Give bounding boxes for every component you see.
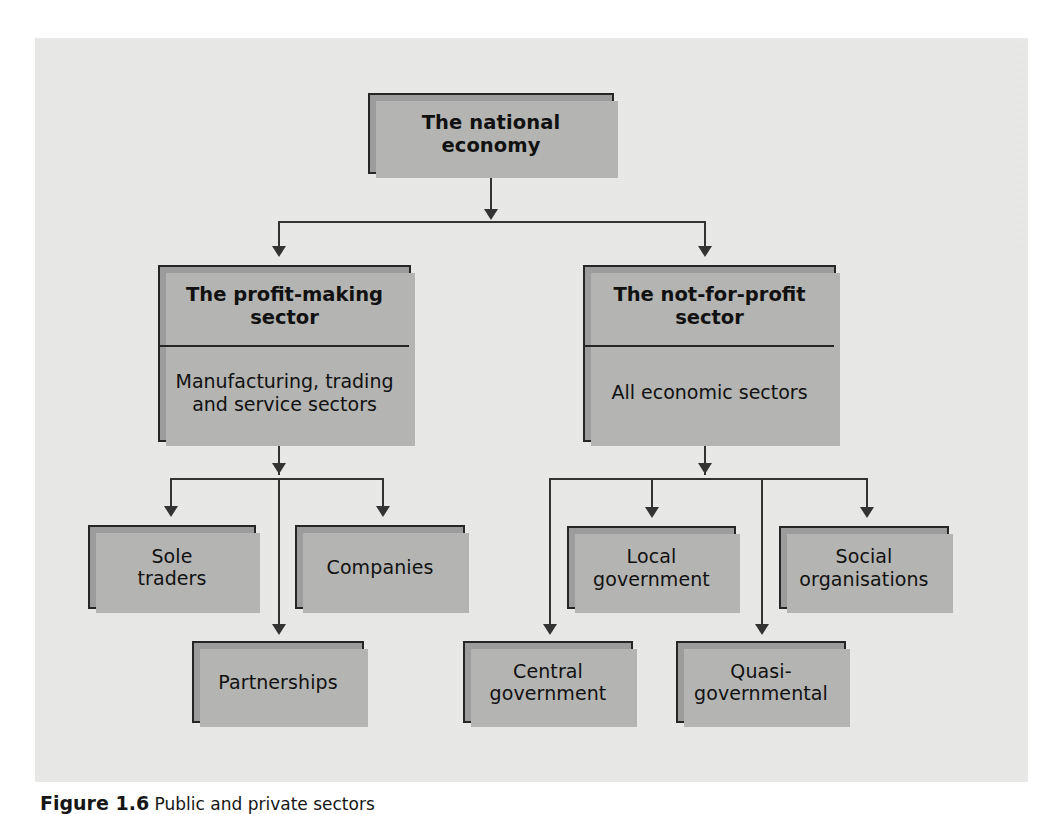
node-header-label: The profit-making sector (178, 283, 391, 330)
figure-caption: Figure 1.6 Public and private sectors (40, 792, 375, 814)
node-body: Manufacturing, trading and service secto… (160, 347, 409, 438)
arrow-to-partnerships (272, 624, 286, 635)
arrow-to-not-for-profit (698, 246, 712, 257)
node-label: Local government (587, 545, 716, 590)
connector-to-companies (382, 478, 384, 508)
node-label: Social organisations (793, 545, 934, 590)
arrow-root-stem (484, 209, 498, 220)
connector-to-social-organisations (866, 478, 868, 510)
connector-to-partnerships (278, 478, 280, 628)
node-companies[interactable]: Companies (295, 525, 465, 609)
connector-root-stem (490, 175, 492, 213)
node-national-economy[interactable]: The national economy (368, 93, 614, 174)
arrow-to-local-government (645, 507, 659, 518)
node-local-government[interactable]: Local government (567, 526, 736, 609)
node-label: Companies (321, 556, 440, 578)
connector-profit-bus (170, 478, 384, 480)
connector-nfp-bus (549, 478, 868, 480)
node-not-for-profit-sector[interactable]: The not-for-profit sector All economic s… (583, 265, 836, 442)
figure-caption-label: Figure 1.6 (40, 792, 149, 814)
figure-caption-text: Public and private sectors (155, 794, 375, 814)
node-social-organisations[interactable]: Social organisations (779, 526, 949, 609)
node-label: The national economy (370, 111, 612, 157)
arrow-to-central-government (543, 624, 557, 635)
node-label: Quasi- governmental (688, 660, 834, 705)
arrow-to-sole-traders (164, 506, 178, 517)
connector-root-bus (278, 221, 706, 223)
node-header: The not-for-profit sector (585, 267, 834, 347)
node-body-label: All economic sectors (603, 381, 815, 404)
connector-to-central-government (549, 478, 551, 628)
node-quasi-governmental[interactable]: Quasi- governmental (676, 641, 846, 723)
node-central-government[interactable]: Central government (463, 641, 633, 723)
node-label: Partnerships (212, 671, 343, 693)
node-header: The profit-making sector (160, 267, 409, 347)
node-sole-traders[interactable]: Sole traders (88, 525, 256, 609)
node-label: Central government (484, 660, 613, 705)
arrow-profit-stem (272, 463, 286, 474)
node-label: Sole traders (131, 545, 212, 590)
connector-to-local-government (651, 478, 653, 510)
node-partnerships[interactable]: Partnerships (192, 641, 364, 723)
arrow-nfp-stem (698, 463, 712, 474)
node-body-label: Manufacturing, trading and service secto… (167, 370, 401, 416)
connector-to-sole-traders (170, 478, 172, 508)
arrow-to-quasi-governmental (755, 624, 769, 635)
connector-to-quasi-governmental (761, 478, 763, 628)
arrow-to-social-organisations (860, 507, 874, 518)
arrow-to-companies (376, 506, 390, 517)
node-header-label: The not-for-profit sector (605, 283, 813, 330)
node-body: All economic sectors (585, 347, 834, 438)
arrow-to-profit-making (272, 246, 286, 257)
node-profit-making-sector[interactable]: The profit-making sector Manufacturing, … (158, 265, 411, 442)
